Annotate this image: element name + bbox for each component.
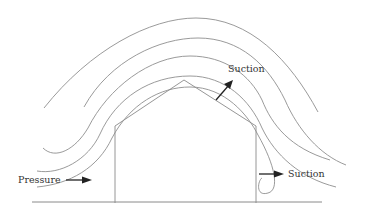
roof-suction-label: Suction: [228, 64, 265, 74]
pressure-arrow-icon: [66, 177, 92, 184]
house-outline: [115, 80, 256, 203]
pressure-label: Pressure: [18, 175, 61, 185]
streamline-5: [37, 87, 275, 194]
streamline-1: [44, 18, 318, 112]
leeward-suction-label: Suction: [288, 169, 325, 179]
leeward-suction-arrow-icon: [259, 171, 284, 178]
building: [115, 80, 256, 203]
wind-flow-diagram: Pressure Suction Suction: [0, 0, 372, 215]
streamline-3: [43, 56, 330, 160]
